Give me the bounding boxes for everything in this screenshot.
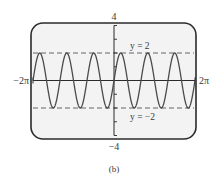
x-min-label: −2π bbox=[13, 75, 29, 86]
ref-line-label-lower: y = −2 bbox=[130, 112, 155, 122]
graph-figure: 4 −4 −2π 2π y = 2 y = −2 (b) bbox=[0, 0, 224, 184]
x-max-label: 2π bbox=[199, 75, 209, 86]
ref-line-label-upper: y = 2 bbox=[130, 41, 150, 51]
figure-caption: (b) bbox=[109, 164, 120, 174]
y-min-label: −4 bbox=[109, 141, 120, 152]
y-max-label: 4 bbox=[112, 11, 117, 22]
